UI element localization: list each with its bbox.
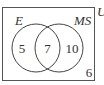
universe-label: U [97, 4, 104, 19]
set-ms-label: MS [73, 13, 92, 28]
region-outside: 6 [86, 65, 93, 80]
region-only-ms: 10 [66, 41, 79, 56]
region-intersection: 7 [44, 41, 51, 56]
set-e-label: E [14, 13, 23, 28]
region-only-e: 5 [19, 41, 26, 56]
venn-diagram: U E MS 5 7 10 6 [0, 0, 104, 85]
